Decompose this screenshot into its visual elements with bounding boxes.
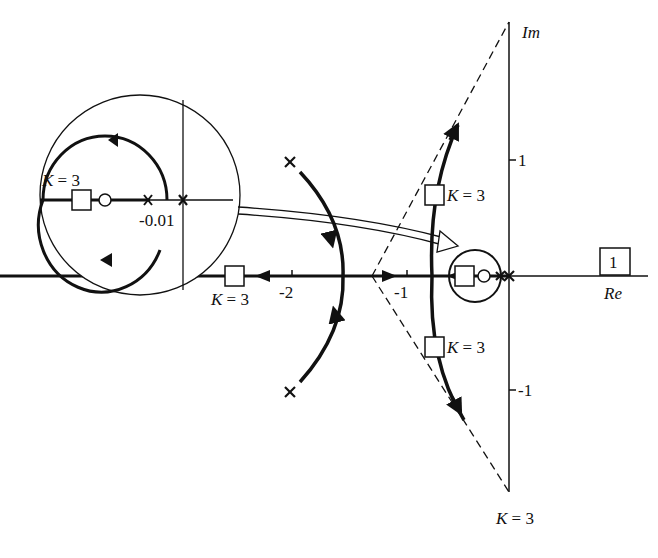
imag-axis: [509, 22, 516, 492]
gain-label-bottom: K = 3: [495, 509, 534, 528]
pole-upper-icon: [285, 157, 295, 167]
gain-label-inset: K = 3: [41, 171, 80, 190]
gain-marker-square: [455, 266, 474, 286]
tick-label-im-1: 1: [518, 151, 527, 170]
inset-zero-icon: [99, 194, 111, 206]
imag-axis-label: Im: [521, 23, 540, 42]
gain-label-lower: K = 3: [446, 338, 485, 357]
pointer-arrow: [238, 207, 458, 252]
inset-value-label: -0.01: [139, 211, 174, 230]
tick-label-minus-1: -1: [394, 283, 408, 302]
real-axis-label: Re: [603, 284, 622, 303]
gain-label-real-axis: K = 3: [210, 290, 249, 309]
inset-magnified-view: [38, 95, 240, 295]
gain-label-upper: KK = 3 = 3: [446, 186, 485, 205]
pole-lower-icon: [285, 387, 295, 397]
tick-label-minus-2: -2: [279, 283, 293, 302]
asymptotes: [372, 22, 509, 492]
zero-icon: [478, 270, 490, 282]
boxed-tick-label: 1: [609, 253, 618, 272]
tick-label-im-minus-1: -1: [518, 381, 532, 400]
root-locus-diagram: Im Re 1 -2 -1 1 -1 KK = 3 = 3 K = 3 K = …: [0, 0, 658, 558]
